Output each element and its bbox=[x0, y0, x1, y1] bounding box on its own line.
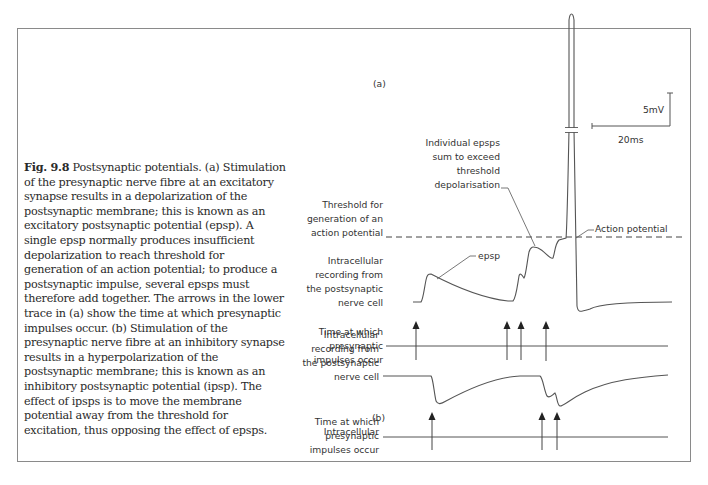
time-label-b: Time at which presynaptic impulses occur bbox=[310, 416, 379, 455]
svg-text:presynaptic: presynaptic bbox=[325, 430, 379, 441]
svg-text:nerve cell: nerve cell bbox=[334, 371, 379, 382]
svg-text:impulses occur: impulses occur bbox=[310, 444, 379, 455]
ipsp-trace bbox=[383, 375, 668, 406]
impulse-arrow bbox=[429, 412, 436, 450]
impulse-arrow bbox=[539, 412, 546, 450]
recording-label-b-lines: Intracellular recording from the postsyn… bbox=[302, 329, 379, 382]
impulse-arrow bbox=[554, 412, 561, 450]
svg-text:recording from: recording from bbox=[311, 343, 379, 354]
presynaptic-impulse-arrows-b bbox=[429, 412, 561, 450]
svg-text:the postsynaptic: the postsynaptic bbox=[302, 357, 379, 368]
svg-text:Time at which: Time at which bbox=[314, 416, 379, 427]
svg-text:Intracellular: Intracellular bbox=[324, 329, 379, 340]
panel-b-diagram: Intracellular recording from the postsyn… bbox=[0, 0, 708, 485]
